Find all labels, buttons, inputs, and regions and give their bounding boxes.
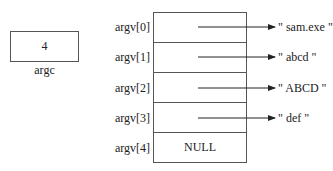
target-string-3: " def "	[278, 111, 309, 125]
target-string-0: " sam.exe "	[278, 20, 333, 34]
target-string-1: " abcd "	[278, 50, 316, 64]
target-string-2: " ABCD "	[278, 81, 326, 95]
